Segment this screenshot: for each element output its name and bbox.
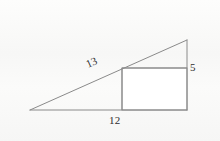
geometry-figure: 13 5 12 xyxy=(0,0,220,141)
base-length-label: 12 xyxy=(109,115,120,126)
inscribed-rectangle xyxy=(122,68,187,110)
vertical-side-length-label: 5 xyxy=(190,62,196,73)
